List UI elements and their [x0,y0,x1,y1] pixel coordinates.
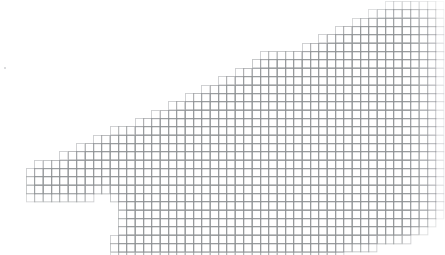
mosaic-stage: Grid Mosaic Silhouette [0,0,445,255]
mosaic-canvas [0,0,445,255]
